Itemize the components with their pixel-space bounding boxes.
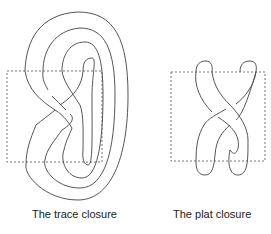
plat-braid-box [171, 72, 265, 161]
plat-strand-1 [196, 61, 248, 175]
trace-braid-box [7, 71, 102, 162]
trace-closure-caption: The trace closure [32, 208, 117, 220]
plat-closure-caption: The plat closure [173, 208, 251, 220]
closure-diagram [0, 0, 271, 234]
trace-strand-outer [25, 12, 128, 200]
